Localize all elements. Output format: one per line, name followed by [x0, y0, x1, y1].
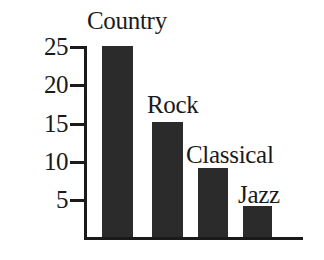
- bar-label-rock: Rock: [147, 92, 199, 117]
- y-tick-label-10: 10: [24, 149, 68, 174]
- y-tick-mark-5: [70, 199, 85, 202]
- bar-label-country: Country: [87, 8, 167, 33]
- y-tick-label-20: 20: [24, 72, 68, 97]
- x-axis-line: [84, 237, 303, 240]
- y-tick-mark-15: [70, 123, 85, 126]
- bar-jazz: [243, 206, 272, 237]
- y-tick-label-5: 5: [24, 187, 68, 212]
- bar-label-classical: Classical: [186, 142, 274, 167]
- y-tick-mark-10: [70, 161, 85, 164]
- y-tick-label-15: 15: [24, 111, 68, 136]
- y-tick-mark-25: [70, 46, 85, 49]
- bar-country: [102, 46, 133, 237]
- plot-area: 25 20 15 10 5 Country Rock Classical J: [0, 0, 324, 260]
- bar-chart: 25 20 15 10 5 Country Rock Classical J: [0, 0, 324, 260]
- y-tick-mark-20: [70, 84, 85, 87]
- bar-rock: [152, 122, 183, 237]
- y-axis-line: [84, 46, 87, 240]
- y-tick-label-25: 25: [24, 34, 68, 59]
- bar-classical: [198, 168, 228, 237]
- bar-label-jazz: Jazz: [238, 182, 280, 207]
